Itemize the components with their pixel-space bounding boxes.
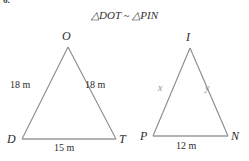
vertex-label-i: I <box>186 30 190 45</box>
vertex-label-t: T <box>119 132 126 147</box>
vertex-label-p: P <box>140 129 147 144</box>
segment-do <box>22 47 68 139</box>
triangle-dot-shape <box>22 47 116 139</box>
vertex-label-d: D <box>7 132 16 147</box>
side-label-do: 18 m <box>10 79 30 90</box>
segment-ot <box>68 47 116 139</box>
side-label-dt: 15 m <box>54 142 74 153</box>
figure-page: 6. △DOT ~ △PIN O D T 18 m 18 m 15 m I P … <box>0 0 249 161</box>
side-label-pn: 12 m <box>176 140 196 151</box>
triangle-pin-shape <box>153 48 228 136</box>
vertex-label-o: O <box>62 29 71 44</box>
side-label-ot: 18 m <box>85 79 105 90</box>
side-label-pi-x: x <box>158 82 162 93</box>
vertex-label-n: N <box>231 129 239 144</box>
side-label-in-y: y <box>205 82 209 93</box>
